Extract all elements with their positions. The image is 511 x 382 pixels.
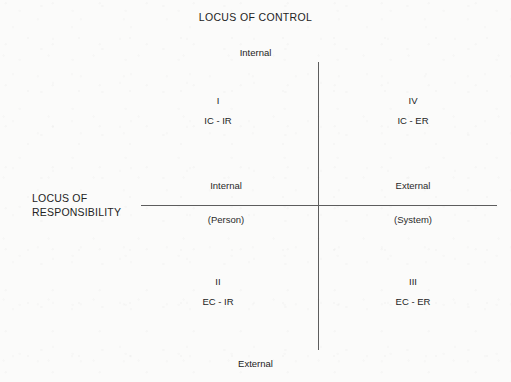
horizontal-axis-line	[141, 205, 497, 206]
quadrant-3: III EC - ER	[358, 275, 468, 308]
vertical-axis-line	[318, 62, 319, 350]
quadrant-2-code: EC - IR	[163, 295, 273, 308]
quadrant-4: IV IC - ER	[358, 94, 468, 127]
page-title: LOCUS OF CONTROL	[0, 11, 511, 23]
quadrant-1-code: IC - IR	[163, 114, 273, 127]
vertical-axis-top-label: Internal	[0, 47, 511, 58]
diagram-canvas: LOCUS OF CONTROL Internal External LOCUS…	[0, 0, 511, 382]
horizontal-axis-title: LOCUS OFRESPONSIBILITY	[32, 191, 121, 219]
vertical-axis-bottom-label: External	[0, 358, 511, 369]
quadrant-1-numeral: I	[163, 94, 273, 107]
horizontal-axis-right-sublabel: (System)	[373, 214, 453, 225]
quadrant-4-code: IC - ER	[358, 114, 468, 127]
quadrant-3-code: EC - ER	[358, 295, 468, 308]
horizontal-axis-left-sublabel: (Person)	[186, 214, 266, 225]
horizontal-axis-right-label: External	[373, 180, 453, 191]
quadrant-2-numeral: II	[163, 275, 273, 288]
quadrant-1: I IC - IR	[163, 94, 273, 127]
quadrant-3-numeral: III	[358, 275, 468, 288]
quadrant-2: II EC - IR	[163, 275, 273, 308]
horizontal-axis-title-line2: RESPONSIBILITY	[32, 206, 121, 218]
quadrant-4-numeral: IV	[358, 94, 468, 107]
horizontal-axis-title-line1: LOCUS OF	[32, 192, 87, 204]
horizontal-axis-left-label: Internal	[186, 180, 266, 191]
